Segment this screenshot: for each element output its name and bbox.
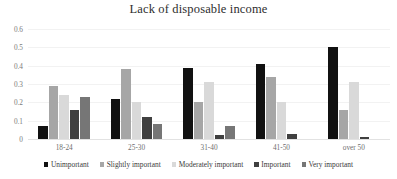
bar[interactable] bbox=[349, 82, 359, 139]
bar[interactable] bbox=[225, 126, 235, 139]
legend-swatch-icon bbox=[172, 162, 177, 167]
legend-label: Important bbox=[261, 160, 290, 169]
bar-group: 31-40 bbox=[173, 29, 245, 139]
legend-label: Unimportant bbox=[51, 160, 89, 169]
bar[interactable] bbox=[266, 77, 276, 139]
bar[interactable] bbox=[194, 102, 204, 139]
bar[interactable] bbox=[38, 126, 48, 139]
bar[interactable] bbox=[142, 117, 152, 139]
bar[interactable] bbox=[215, 135, 225, 139]
y-tick-label: 0.6 bbox=[14, 25, 23, 34]
bar[interactable] bbox=[70, 110, 80, 139]
chart-container: Lack of disposable income 00.10.20.30.40… bbox=[0, 0, 397, 179]
bar[interactable] bbox=[277, 102, 287, 139]
bar-group: 41-50 bbox=[245, 29, 317, 139]
bar[interactable] bbox=[80, 97, 90, 139]
bar[interactable] bbox=[204, 82, 214, 139]
bar[interactable] bbox=[153, 124, 163, 139]
y-tick-label: 0 bbox=[19, 135, 23, 144]
bar[interactable] bbox=[132, 102, 142, 139]
y-tick-label: 0.5 bbox=[14, 43, 23, 52]
x-tick-label: 31-40 bbox=[201, 143, 218, 152]
legend-swatch-icon bbox=[302, 162, 307, 167]
y-tick-label: 0.3 bbox=[14, 80, 23, 89]
bar-group: 18-24 bbox=[28, 29, 100, 139]
plot-area: 00.10.20.30.40.50.6 18-2425-3031-4041-50… bbox=[28, 29, 390, 139]
y-tick-label: 0.4 bbox=[14, 61, 23, 70]
legend-item[interactable]: Important bbox=[254, 160, 290, 169]
x-tick-label: 18-24 bbox=[56, 143, 73, 152]
x-tick-label: 41-50 bbox=[273, 143, 290, 152]
legend-item[interactable]: Moderately important bbox=[172, 160, 244, 169]
bar[interactable] bbox=[111, 99, 121, 139]
bar[interactable] bbox=[49, 86, 59, 139]
x-tick-label: over 50 bbox=[343, 143, 365, 152]
legend-swatch-icon bbox=[44, 162, 49, 167]
bar[interactable] bbox=[256, 64, 266, 139]
legend-item[interactable]: Very important bbox=[302, 160, 354, 169]
y-tick-label: 0.2 bbox=[14, 98, 23, 107]
bars-layer: 18-2425-3031-4041-50over 50 bbox=[28, 29, 390, 139]
legend-label: Very important bbox=[309, 160, 354, 169]
x-tick-label: 25-30 bbox=[128, 143, 145, 152]
bar-group: over 50 bbox=[318, 29, 390, 139]
gridline bbox=[28, 139, 390, 140]
legend-label: Moderately important bbox=[179, 160, 244, 169]
legend-item[interactable]: Slightly important bbox=[100, 160, 161, 169]
legend-swatch-icon bbox=[254, 162, 259, 167]
bar[interactable] bbox=[183, 68, 193, 140]
legend-label: Slightly important bbox=[107, 160, 161, 169]
legend-item[interactable]: Unimportant bbox=[44, 160, 89, 169]
bar[interactable] bbox=[59, 95, 69, 139]
y-tick-label: 0.1 bbox=[14, 116, 23, 125]
bar[interactable] bbox=[360, 137, 370, 139]
bar-group: 25-30 bbox=[100, 29, 172, 139]
legend-swatch-icon bbox=[100, 162, 105, 167]
bar[interactable] bbox=[287, 134, 297, 140]
chart-title: Lack of disposable income bbox=[0, 2, 397, 17]
bar[interactable] bbox=[339, 110, 349, 139]
bar[interactable] bbox=[121, 69, 131, 139]
bar[interactable] bbox=[328, 47, 338, 139]
chart-legend: UnimportantSlightly importantModerately … bbox=[0, 160, 397, 169]
